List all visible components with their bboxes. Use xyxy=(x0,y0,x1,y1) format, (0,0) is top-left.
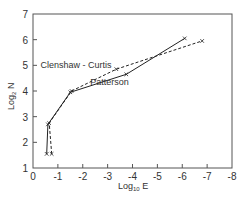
x-marker-icon xyxy=(200,39,204,43)
chart: 1234567 0-1-2-3-4-5-6-7-8 Clenshaw - Cur… xyxy=(0,0,249,199)
series-line xyxy=(49,41,202,154)
y-axis-title: Log2 N xyxy=(6,83,17,110)
x-marker-icon xyxy=(183,37,187,41)
x-axis-title: Log10 E xyxy=(118,181,148,192)
x-tick-label: -1 xyxy=(53,171,62,182)
data-series xyxy=(45,37,204,156)
y-tick-label: 6 xyxy=(22,35,28,46)
x-tick-label: -8 xyxy=(228,171,237,182)
y-tick-label: 7 xyxy=(22,9,28,20)
y-tick-label: 1 xyxy=(22,163,28,174)
series-annotation: Patterson xyxy=(90,77,129,87)
series-annotation: Clenshaw - Curtis xyxy=(40,60,112,70)
x-tick-label: -2 xyxy=(78,171,87,182)
y-tick-label: 5 xyxy=(22,60,28,71)
annotations: Clenshaw - CurtisPatterson xyxy=(40,60,128,87)
y-tick-label: 3 xyxy=(22,112,28,123)
y-tick-label: 2 xyxy=(22,137,28,148)
series-line xyxy=(47,38,185,153)
x-axis-ticks: 0-1-2-3-4-5-6-7-8 xyxy=(30,164,237,182)
x-tick-label: -7 xyxy=(203,171,212,182)
y-tick-label: 4 xyxy=(22,86,28,97)
y-axis-ticks: 1234567 xyxy=(22,9,37,174)
plot-frame xyxy=(33,14,232,168)
x-tick-label: -5 xyxy=(153,171,162,182)
x-tick-label: -3 xyxy=(103,171,112,182)
x-tick-label: -6 xyxy=(178,171,187,182)
x-tick-label: 0 xyxy=(30,171,36,182)
